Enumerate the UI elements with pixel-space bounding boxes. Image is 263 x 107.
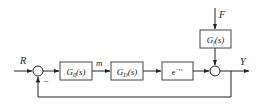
error-summing-junction bbox=[33, 66, 43, 76]
disturbance-block-arg: (s) bbox=[215, 35, 225, 45]
input-r-label: R bbox=[19, 55, 26, 66]
delay-block: e−τs bbox=[162, 62, 193, 80]
output-summing-junction bbox=[210, 66, 220, 76]
svg-text:GD(s): GD(s) bbox=[117, 67, 137, 78]
delay-block-sup: −τs bbox=[175, 67, 182, 72]
disturbance-f-label: F bbox=[218, 9, 226, 20]
output-y-label: Y bbox=[240, 56, 247, 67]
controller-block: G0(s) bbox=[60, 62, 92, 80]
block-diagram: R − G0(s) m GD(s) e−τs F Gf(s) bbox=[0, 0, 263, 107]
controller-block-arg: (s) bbox=[76, 67, 86, 77]
svg-text:G0(s): G0(s) bbox=[67, 67, 86, 78]
minus-sign: − bbox=[43, 76, 49, 86]
disturbance-block: Gf(s) bbox=[200, 30, 231, 48]
process-block: GD(s) bbox=[111, 62, 143, 80]
process-block-arg: (s) bbox=[128, 67, 138, 77]
svg-text:Gf(s): Gf(s) bbox=[207, 35, 225, 46]
manipulated-signal-label: m bbox=[96, 58, 103, 68]
